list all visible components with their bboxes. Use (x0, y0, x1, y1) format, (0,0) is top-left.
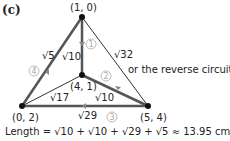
step-4: 4 (29, 66, 39, 76)
reverse-circuit-note: or the reverse circuit (128, 64, 230, 75)
arrow-icon (79, 42, 85, 46)
step-1: 1 (86, 39, 96, 49)
step-3: 3 (107, 112, 117, 122)
svg-text:4: 4 (32, 67, 37, 76)
vertex-label-left: (0, 2) (12, 112, 39, 123)
edge-label-left-center: √17 (50, 92, 69, 103)
svg-text:2: 2 (104, 72, 109, 81)
step-2: 2 (101, 71, 111, 81)
edge-label-center-right: √10 (95, 92, 114, 103)
vertex-center (79, 72, 85, 78)
edge-top-right (82, 17, 148, 106)
vertex-left (19, 103, 25, 109)
arrow-icon (115, 86, 121, 90)
edge-label-left-right: √29 (78, 110, 97, 121)
edge-label-top-center: √10 (62, 51, 81, 62)
part-label: (c) (2, 3, 21, 17)
circuit-diagram: (c) (1, 0) (4, 1) (0, 2) (5, 4) √5 √10 √… (0, 0, 230, 141)
vertex-label-top: (1, 0) (70, 2, 97, 13)
edge-label-top-left: √5 (42, 50, 55, 61)
svg-text:3: 3 (110, 113, 115, 122)
vertex-label-right: (5, 4) (140, 112, 167, 123)
arrow-icon (82, 103, 86, 109)
svg-text:1: 1 (89, 40, 94, 49)
edge-label-top-right: √32 (114, 49, 133, 60)
vertex-label-center: (4, 1) (70, 81, 97, 92)
vertex-right (145, 103, 151, 109)
vertex-top (79, 14, 85, 20)
length-formula: Length = √10 + √10 + √29 + √5 ≈ 13.95 cm (5, 126, 230, 137)
